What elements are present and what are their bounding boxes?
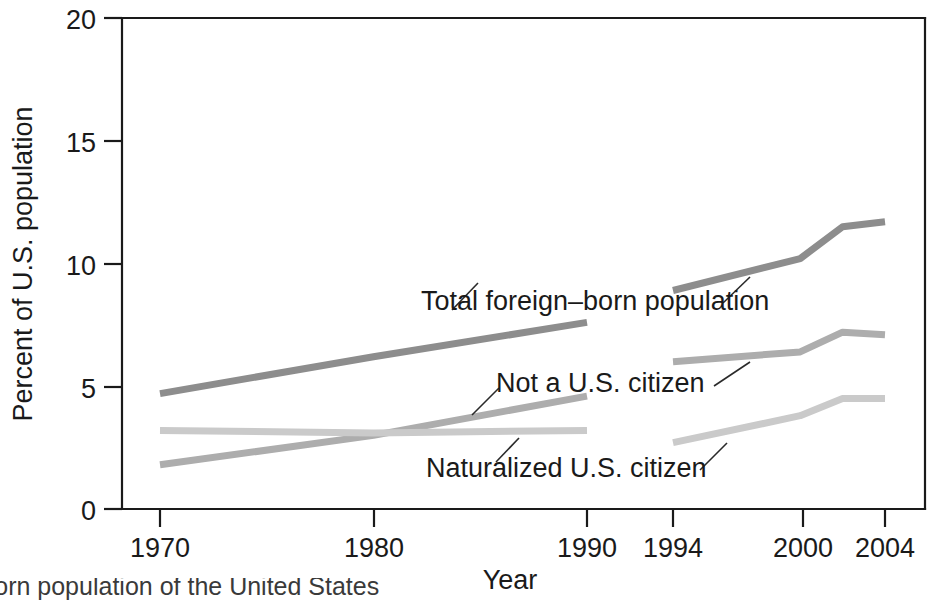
x-tick-label-2004: 2004 xyxy=(855,533,915,563)
y-tick-label-15: 15 xyxy=(66,128,96,158)
y-tick-label-5: 5 xyxy=(81,374,96,404)
x-tick-label-1980: 1980 xyxy=(344,533,404,563)
series-label-naturalized-us-citizen: Naturalized U.S. citizen xyxy=(426,453,707,483)
axes-group xyxy=(122,18,925,509)
series-line-1-segment-1 xyxy=(673,332,885,362)
y-axis-title: Percent of U.S. population xyxy=(8,106,38,421)
x-tick-group: 1970 1980 1990 1994 2000 2004 xyxy=(130,509,915,563)
x-tick-label-2000: 2000 xyxy=(773,533,833,563)
line-chart: 20 15 10 5 0 1970 1980 1990 1994 2000 20… xyxy=(0,0,937,604)
x-tick-label-1970: 1970 xyxy=(130,533,190,563)
series-line-2-segment-0 xyxy=(160,430,587,433)
series-lines-group xyxy=(160,222,885,465)
series-line-2-segment-1 xyxy=(673,399,885,443)
x-tick-label-1990: 1990 xyxy=(557,533,617,563)
series-label-total-foreign-born: Total foreign–born population xyxy=(421,286,769,316)
series-line-0-segment-1 xyxy=(673,222,885,291)
figure-caption-text: -born population of the United States xyxy=(0,578,379,601)
leader-notcitizen-right xyxy=(714,362,750,386)
y-tick-label-0: 0 xyxy=(81,496,96,526)
figure-caption: -born population of the United States xyxy=(0,578,937,604)
y-tick-label-20: 20 xyxy=(66,5,96,35)
series-label-not-a-us-citizen: Not a U.S. citizen xyxy=(496,368,705,398)
x-tick-label-1994: 1994 xyxy=(643,533,703,563)
y-tick-label-10: 10 xyxy=(66,251,96,281)
y-tick-group: 20 15 10 5 0 xyxy=(66,5,122,526)
figure-container: 20 15 10 5 0 1970 1980 1990 1994 2000 20… xyxy=(0,0,937,604)
